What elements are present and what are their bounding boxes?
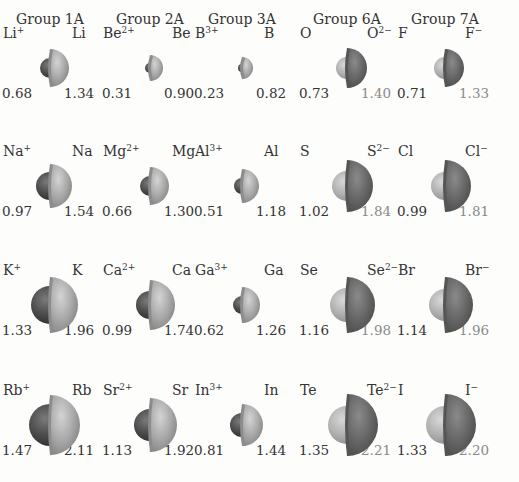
atom-anion-sphere-icon	[307, 265, 387, 345]
atom-anion-sphere-icon	[307, 385, 387, 465]
left-symbol: I	[398, 382, 404, 398]
symbol-text: I	[398, 382, 404, 398]
atom-anion-sphere-icon	[405, 385, 485, 465]
cation-atom-sphere-icon	[10, 28, 90, 108]
cation-atom-sphere-icon	[110, 146, 190, 226]
cation-atom-sphere-icon	[10, 385, 90, 465]
cation-atom-sphere-icon	[110, 265, 190, 345]
atom-anion-sphere-icon	[405, 146, 485, 226]
cation-atom-sphere-icon	[202, 146, 282, 226]
cation-atom-sphere-icon	[10, 146, 90, 226]
cation-atom-sphere-icon	[110, 28, 190, 108]
cation-atom-sphere-icon	[202, 265, 282, 345]
atom-anion-sphere-icon	[307, 146, 387, 226]
atom-anion-sphere-icon	[307, 28, 387, 108]
cation-atom-sphere-icon	[202, 28, 282, 108]
cation-atom-sphere-icon	[10, 265, 90, 345]
atom-anion-sphere-icon	[405, 265, 485, 345]
cation-atom-sphere-icon	[202, 385, 282, 465]
cation-atom-sphere-icon	[110, 385, 190, 465]
atom-anion-sphere-icon	[405, 28, 485, 108]
